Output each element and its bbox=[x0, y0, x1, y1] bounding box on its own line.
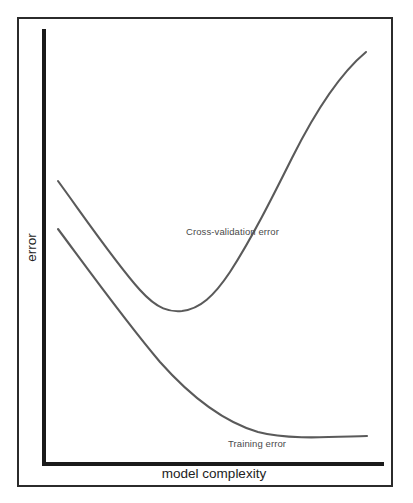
x-axis-label: model complexity bbox=[44, 466, 384, 481]
cross-validation-error-curve bbox=[58, 52, 366, 311]
training-error-curve bbox=[58, 229, 367, 437]
plot-area bbox=[0, 0, 413, 503]
cross-validation-error-label: Cross-validation error bbox=[186, 226, 279, 237]
figure-canvas: Cross-validation error Training error mo… bbox=[0, 0, 413, 503]
training-error-label: Training error bbox=[228, 438, 286, 449]
y-axis-label: error bbox=[24, 212, 39, 284]
